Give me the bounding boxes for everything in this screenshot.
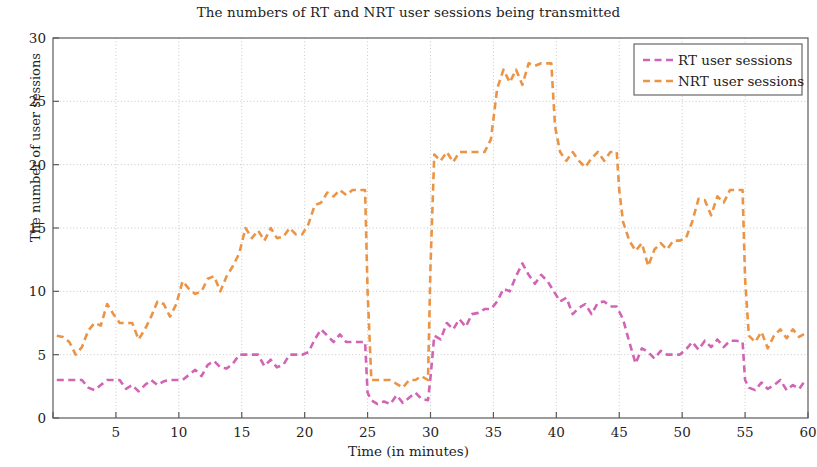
- svg-text:50: 50: [674, 424, 691, 440]
- chart-legend: RT user sessionsNRT user sessions: [634, 44, 804, 95]
- svg-text:10: 10: [29, 283, 46, 299]
- series-line-nrt: [57, 63, 806, 387]
- svg-text:60: 60: [799, 424, 816, 440]
- chart-figure: The numbers of RT and NRT user sessions …: [0, 0, 817, 467]
- series-line-rt: [57, 263, 806, 404]
- svg-text:30: 30: [29, 30, 46, 46]
- x-axis-label: Time (in minutes): [0, 443, 817, 459]
- plot-area: 51015202530354045505560051015202530 RT u…: [0, 0, 817, 467]
- svg-text:15: 15: [233, 424, 250, 440]
- svg-text:5: 5: [37, 347, 46, 363]
- svg-text:10: 10: [170, 424, 187, 440]
- svg-text:30: 30: [422, 424, 439, 440]
- svg-text:35: 35: [485, 424, 502, 440]
- svg-text:45: 45: [611, 424, 628, 440]
- svg-text:40: 40: [548, 424, 565, 440]
- svg-text:5: 5: [112, 424, 121, 440]
- legend-label-1: NRT user sessions: [678, 73, 804, 89]
- svg-text:25: 25: [359, 424, 376, 440]
- svg-text:25: 25: [29, 93, 46, 109]
- svg-text:55: 55: [736, 424, 753, 440]
- svg-text:20: 20: [29, 157, 46, 173]
- svg-text:15: 15: [29, 220, 46, 236]
- svg-text:20: 20: [296, 424, 313, 440]
- legend-label-0: RT user sessions: [678, 52, 792, 68]
- svg-text:0: 0: [37, 410, 46, 426]
- data-series: [57, 63, 806, 404]
